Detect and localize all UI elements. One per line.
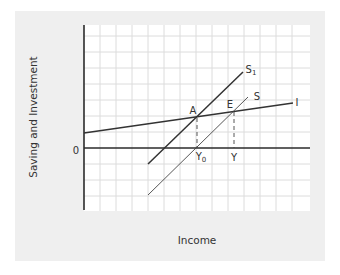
y-label: Y: [231, 152, 237, 163]
investment-line-label: I: [296, 97, 299, 108]
chart-svg: [0, 0, 340, 275]
s-line-label: S: [254, 91, 260, 102]
point-a-label: A: [190, 105, 197, 116]
y-axis-label: Saving and Investment: [27, 56, 39, 177]
x-axis-label: Income: [178, 234, 217, 246]
s1-line-label: S1: [246, 64, 257, 77]
y0-label-sub: 0: [202, 156, 206, 164]
s1-label-sub: 1: [252, 69, 256, 77]
point-e-label: E: [227, 99, 233, 110]
y0-label: Y0: [196, 151, 207, 164]
origin-label: 0: [73, 145, 79, 156]
